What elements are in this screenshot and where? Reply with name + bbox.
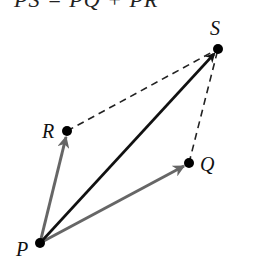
label-r: R	[42, 120, 54, 143]
label-s: S	[210, 17, 220, 40]
vector-parallelogram-diagram: PS = PQ + PR S R Q P	[0, 0, 253, 277]
vector-ps	[40, 54, 214, 243]
vector-pq	[40, 166, 184, 243]
label-q: Q	[200, 153, 214, 176]
point-r	[62, 126, 72, 136]
diagram-canvas	[0, 0, 253, 277]
dashed-edge-rs	[67, 50, 216, 131]
point-s	[213, 44, 223, 54]
point-p	[35, 238, 45, 248]
point-q	[184, 158, 194, 168]
label-p: P	[16, 238, 28, 261]
